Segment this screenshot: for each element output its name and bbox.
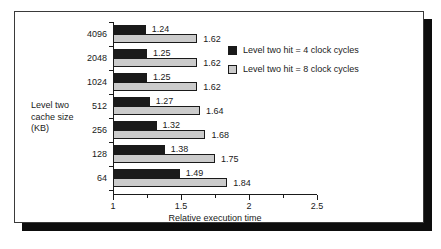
y-axis-tick	[109, 94, 114, 95]
x-axis-tick	[113, 195, 114, 200]
bar	[113, 34, 197, 43]
y-axis-tick	[109, 166, 114, 167]
y-axis-tick	[109, 190, 114, 191]
bar-value-label: 1.49	[186, 169, 204, 178]
bar	[113, 130, 205, 139]
x-axis-tick	[317, 195, 318, 200]
x-axis-minor-tick	[147, 195, 148, 198]
y-axis-tick-label: 64	[61, 173, 107, 183]
x-axis-minor-tick	[283, 195, 284, 198]
bar-value-label: 1.62	[203, 35, 221, 44]
x-axis-tick	[181, 195, 182, 200]
bar	[113, 58, 197, 67]
bar-value-label: 1.62	[203, 59, 221, 68]
bar	[113, 178, 227, 187]
bar-value-label: 1.27	[156, 97, 174, 106]
legend-label: Level two hit = 8 clock cycles	[243, 64, 359, 74]
bar	[113, 169, 180, 178]
x-axis-tick-label: 1.5	[175, 201, 188, 211]
y-axis-tick-label: 256	[61, 125, 107, 135]
y-axis-tick-label: 4096	[61, 29, 107, 39]
y-axis-tick	[109, 118, 114, 119]
legend-item: Level two hit = 4 clock cycles	[228, 45, 359, 55]
bar-value-label: 1.32	[163, 121, 181, 130]
bar	[113, 82, 197, 91]
y-axis-tick-label: 128	[61, 149, 107, 159]
bar	[113, 106, 200, 115]
y-axis-tick-label: 1024	[61, 77, 107, 87]
bar-value-label: 1.25	[153, 73, 171, 82]
x-axis-tick	[249, 195, 250, 200]
x-axis-tick-label: 2.5	[311, 201, 324, 211]
bar	[113, 121, 157, 130]
bar	[113, 154, 215, 163]
legend-item: Level two hit = 8 clock cycles	[228, 64, 359, 74]
x-axis-title: Relative execution time	[113, 213, 317, 223]
bar-value-label: 1.75	[221, 155, 239, 164]
y-axis-tick-label: 512	[61, 101, 107, 111]
bar	[113, 97, 150, 106]
bar-value-label: 1.84	[233, 179, 251, 188]
y-axis-tick	[109, 70, 114, 71]
figure-frame: Level two cache size (KB) 40962048102451…	[14, 11, 424, 223]
bar-value-label: 1.62	[203, 83, 221, 92]
chart-plot-area: Level two cache size (KB) 40962048102451…	[15, 12, 425, 224]
bar-value-label: 1.38	[171, 145, 189, 154]
y-axis-tick-label: 2048	[61, 53, 107, 63]
bar-value-label: 1.68	[211, 131, 229, 140]
x-axis-minor-tick	[215, 195, 216, 198]
bar	[113, 145, 165, 154]
y-axis-tick	[109, 142, 114, 143]
bar	[113, 25, 146, 34]
y-axis-tick	[109, 46, 114, 47]
bar-value-label: 1.64	[206, 107, 224, 116]
y-axis-tick	[109, 22, 114, 23]
x-axis-tick-label: 2	[246, 201, 251, 211]
bar-value-label: 1.25	[153, 49, 171, 58]
x-axis-tick-label: 1	[110, 201, 115, 211]
grey-swatch-icon	[228, 65, 237, 74]
chart-legend: Level two hit = 4 clock cyclesLevel two …	[228, 45, 359, 83]
legend-label: Level two hit = 4 clock cycles	[243, 45, 359, 55]
bar	[113, 49, 147, 58]
black-swatch-icon	[228, 46, 237, 55]
bar-value-label: 1.24	[152, 25, 170, 34]
bar	[113, 73, 147, 82]
